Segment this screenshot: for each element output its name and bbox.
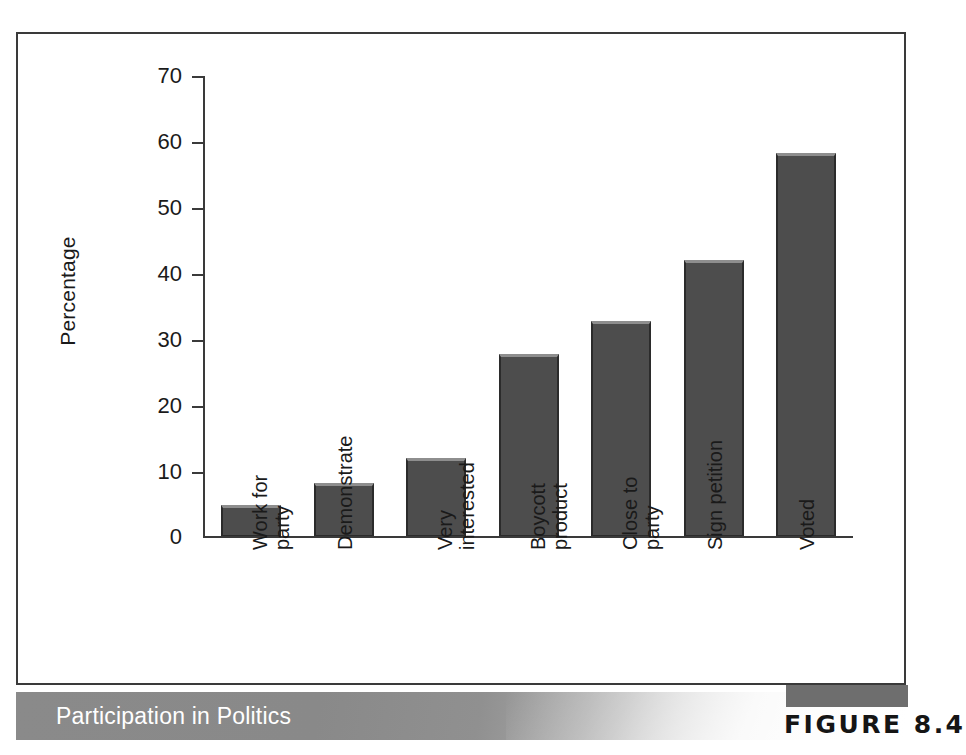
y-tick-mark-70 <box>192 76 203 78</box>
figure-caption-text: Participation in Politics <box>56 703 291 730</box>
x-label-sign-petition: Sign petition <box>704 400 726 550</box>
x-label-boycott-product: Boycott product <box>527 400 572 550</box>
figure-number-label: FIGURE 8.4 <box>784 710 966 739</box>
y-tick-mark-20 <box>192 406 203 408</box>
figure-caption-band: Participation in Politics <box>16 692 906 740</box>
x-label-very-interested: Very interested <box>434 400 479 550</box>
y-tick-mark-60 <box>192 142 203 144</box>
x-label-work-for-party: Work for party <box>249 400 294 550</box>
y-axis-line <box>203 76 205 537</box>
x-label-voted: Voted <box>796 400 818 550</box>
plot-area: Percentage 70 60 50 40 30 20 10 <box>18 34 908 687</box>
y-tick-label-60: 60 <box>136 129 182 155</box>
y-tick-mark-10 <box>192 472 203 474</box>
x-label-close-to-party: Close to party <box>619 400 664 550</box>
y-tick-label-30: 30 <box>136 327 182 353</box>
y-tick-label-10: 10 <box>136 459 182 485</box>
y-tick-label-0: 0 <box>136 524 182 550</box>
y-tick-label-20: 20 <box>136 393 182 419</box>
y-tick-label-40: 40 <box>136 261 182 287</box>
y-axis-title: Percentage <box>56 211 80 371</box>
y-tick-mark-40 <box>192 274 203 276</box>
figure-number-tab <box>786 685 908 707</box>
y-tick-mark-50 <box>192 208 203 210</box>
y-tick-mark-30 <box>192 340 203 342</box>
chart-frame: Percentage 70 60 50 40 30 20 10 <box>16 32 906 685</box>
x-label-demonstrate: Demonstrate <box>334 400 356 550</box>
y-tick-label-70: 70 <box>136 63 182 89</box>
y-tick-label-50: 50 <box>136 195 182 221</box>
